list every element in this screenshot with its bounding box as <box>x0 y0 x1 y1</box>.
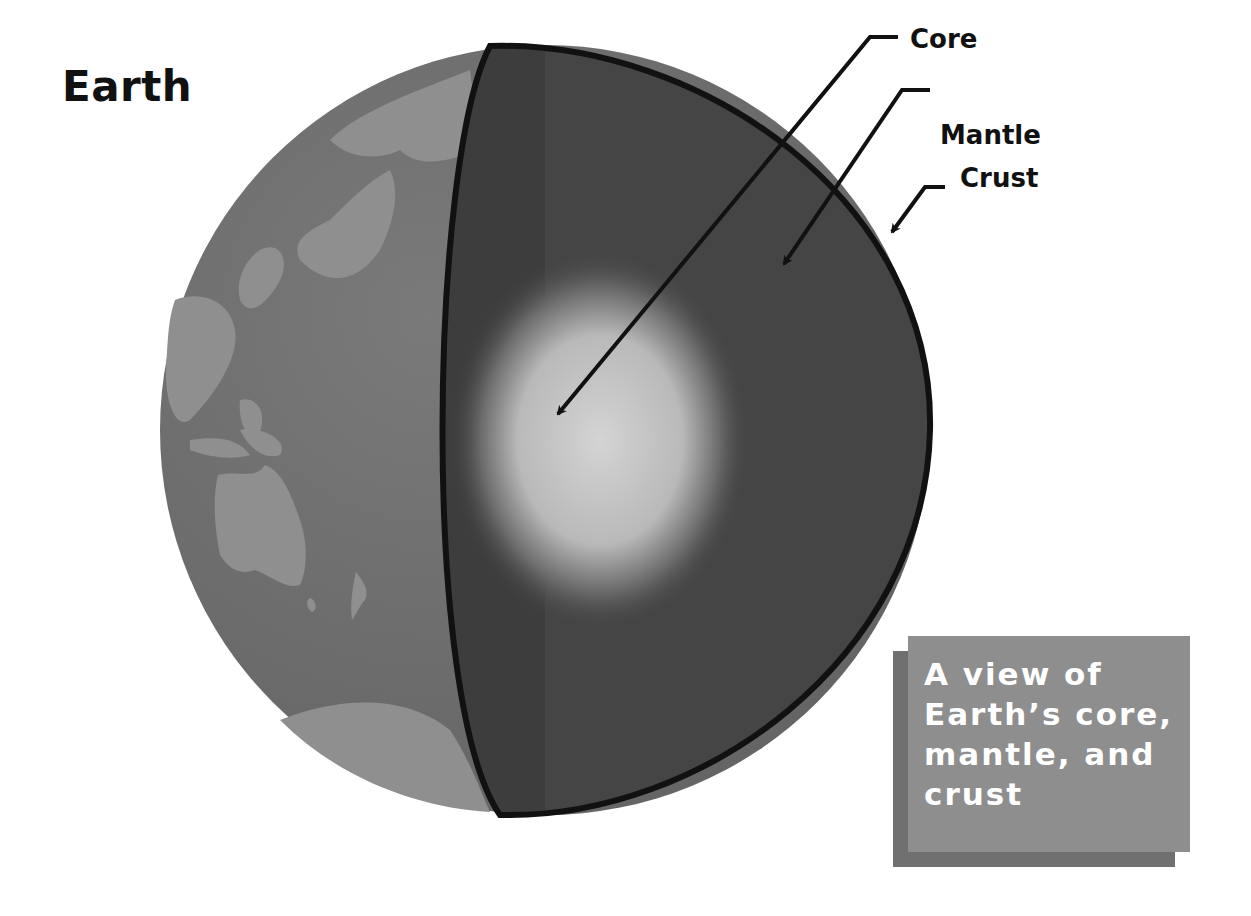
caption-line-2: Earth’s core, <box>924 694 1174 734</box>
caption-line-3: mantle, and <box>924 734 1174 774</box>
crust-label: Crust <box>960 165 1038 191</box>
caption-line-4: crust <box>924 774 1174 814</box>
mantle-label: Mantle <box>940 122 1041 148</box>
core-label: Core <box>910 26 977 52</box>
caption-line-1: A view of <box>924 654 1174 694</box>
core <box>450 250 750 630</box>
crust-leader-line <box>892 187 945 232</box>
caption-box: A view of Earth’s core, mantle, and crus… <box>908 636 1190 852</box>
